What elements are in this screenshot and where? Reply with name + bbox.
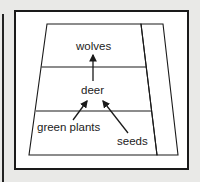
label-green-plants: green plants [37, 121, 101, 133]
food-pyramid-diagram: wolves deer green plants seeds [0, 0, 200, 182]
label-wolves: wolves [75, 40, 111, 52]
arrow-seeds-to-deer [103, 101, 128, 133]
label-deer: deer [81, 84, 104, 96]
label-seeds: seeds [117, 135, 148, 147]
